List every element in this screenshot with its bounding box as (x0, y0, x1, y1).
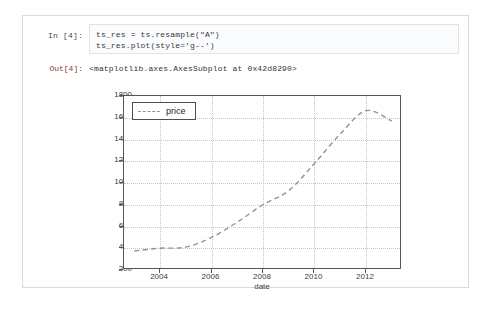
matplotlib-figure: 18001600140012001000800600400200 2004200… (67, 71, 427, 286)
input-prompt-label: In [4]: (31, 31, 83, 40)
x-tick-mark (211, 269, 212, 273)
price-line-series (124, 96, 401, 269)
x-tick-label: 2008 (253, 272, 271, 281)
x-tick-mark (313, 269, 314, 273)
code-input-box[interactable]: ts_res = ts.resample("A") ts_res.plot(st… (89, 24, 459, 54)
x-tick-mark (262, 269, 263, 273)
x-tick-label: 2004 (150, 272, 168, 281)
x-axis-title: date (254, 282, 270, 291)
x-tick-label: 2010 (305, 272, 323, 281)
x-tick-label: 2006 (202, 272, 220, 281)
screenshot-root: In [4]: ts_res = ts.resample("A") ts_res… (0, 0, 491, 309)
code-line-2: ts_res.plot(style='g--') (96, 41, 215, 50)
legend-label-price: price (166, 106, 186, 116)
code-line-1: ts_res = ts.resample("A") (96, 30, 220, 39)
chart-legend: price (132, 102, 196, 120)
legend-dash-icon (138, 111, 160, 112)
series-path-price (134, 110, 391, 251)
x-tick-mark (159, 269, 160, 273)
x-tick-mark (365, 269, 366, 273)
y-tick-mark (119, 269, 123, 270)
notebook-cell: In [4]: ts_res = ts.resample("A") ts_res… (22, 15, 469, 288)
x-tick-label: 2012 (356, 272, 374, 281)
plot-area: price (123, 95, 401, 269)
input-row: In [4]: ts_res = ts.resample("A") ts_res… (23, 22, 470, 54)
